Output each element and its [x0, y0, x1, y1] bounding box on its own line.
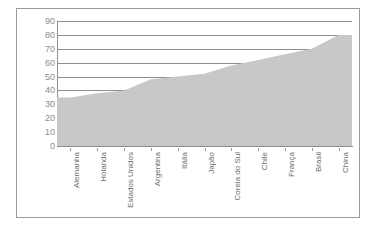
x-axis-category-label-text: Japão	[208, 152, 216, 174]
y-axis-tick-labels: 9080706050403020100	[29, 21, 55, 146]
x-axis-category-label: Chile	[258, 134, 266, 152]
x-axis-category-label-text: Brasil	[315, 152, 323, 172]
y-axis-tick-label: 70	[33, 44, 55, 53]
x-axis-tick: Alemanha	[63, 148, 77, 216]
y-axis-tick-label: 60	[33, 58, 55, 67]
x-axis-tick: Brasil	[305, 148, 319, 216]
x-axis-category-label: Estados Unidos	[124, 96, 132, 152]
y-axis-tick-label: 0	[33, 142, 55, 151]
x-axis-category-label: Itália	[178, 135, 186, 152]
x-axis-category-label: Brasil	[312, 132, 320, 152]
y-axis-tick-label: 90	[33, 17, 55, 26]
x-axis-category-label-text: Itália	[181, 152, 189, 169]
x-axis-category-label-text: Alemanha	[73, 152, 81, 188]
x-axis-category-label: Argentina	[151, 118, 159, 152]
y-axis-tick-label: 80	[33, 30, 55, 39]
chart-plot-wrapper: 9080706050403020100 AlemanhaHolandaEstad…	[17, 9, 361, 219]
x-axis-category-label: França	[285, 127, 293, 152]
x-axis-category-label: Alemanha	[70, 116, 78, 152]
x-axis-category-label-text: China	[342, 152, 350, 173]
x-axis-category-label: Holanda	[97, 122, 105, 152]
x-axis-category-label: Japão	[205, 130, 213, 152]
chart-frame: 9080706050403020100 AlemanhaHolandaEstad…	[16, 8, 360, 218]
x-axis-category-label-text: França	[288, 152, 296, 177]
x-axis-tick: Itália	[171, 148, 185, 216]
x-axis-category-label-text: Chile	[261, 152, 269, 170]
x-axis-tick: Estados Unidos	[117, 148, 131, 216]
x-axis-category-label-text: Estados Unidos	[127, 152, 135, 208]
x-axis-category-label: Coreia do Sul	[231, 104, 239, 152]
x-axis-category-label-text: Coreia do Sul	[234, 152, 242, 200]
x-axis-category-labels: AlemanhaHolandaEstados UnidosArgentinaIt…	[57, 148, 352, 216]
y-axis-tick-label: 40	[33, 86, 55, 95]
x-axis-tick: Japão	[198, 148, 212, 216]
y-axis-tick-label: 10	[33, 128, 55, 137]
y-axis-tick-label: 50	[33, 72, 55, 81]
x-axis-tick: Holanda	[90, 148, 104, 216]
x-axis-category-label: China	[339, 131, 347, 152]
x-axis-tick: Chile	[251, 148, 265, 216]
x-axis-category-label-text: Holanda	[100, 152, 108, 182]
x-axis-category-label-text: Argentina	[154, 152, 162, 186]
x-axis-tick: França	[278, 148, 292, 216]
x-axis-tick: Coreia do Sul	[224, 148, 238, 216]
y-axis-tick-label: 20	[33, 114, 55, 123]
x-axis-tick: China	[332, 148, 346, 216]
x-axis-tick: Argentina	[144, 148, 158, 216]
y-axis-tick-label: 30	[33, 100, 55, 109]
